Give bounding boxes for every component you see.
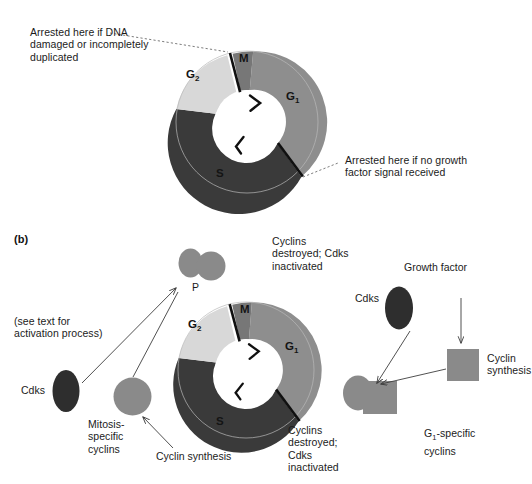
mitosis-cyclin-molecule [114, 378, 152, 416]
mitosis-specific-cyclins-label: Mitosis- specific cyclins [88, 418, 148, 455]
cdks-label-right: Cdks [355, 292, 379, 304]
cdk-molecule-right [385, 287, 413, 330]
cdk-cyclin-complex-lobe-b [197, 252, 226, 281]
connector-mitosis-cyclin-to-complex [133, 292, 178, 377]
cdk-molecule-left [53, 370, 80, 412]
panel-b-letter: (b) [14, 233, 28, 245]
top-cell-cycle-wheel [168, 51, 327, 214]
growth-factor-label: Growth factor [404, 261, 467, 273]
top-annotation-g1s-checkpoint: Arrested here if no growth factor signal… [345, 154, 520, 179]
g1-specific-cyclins-label: G1-specific cyclins [424, 427, 514, 457]
top-wheel-hub [215, 90, 279, 154]
arrow-cdk-right-to-complex [377, 331, 410, 383]
arrow-cyclin-square-to-complex [381, 369, 446, 384]
cyclins-destroyed-note-top: Cyclins destroyed; Cdks inactivated [272, 235, 392, 272]
cyclin-synthesis-label-right: Cyclin synthesis [487, 352, 532, 377]
g1-cyclin-square-free [447, 349, 479, 381]
cdks-label-left: Cdks [21, 384, 45, 396]
g1-cdk-complex-square [363, 381, 397, 414]
top-annotation-g2m-checkpoint: Arrested here if DNA damaged or incomple… [30, 26, 190, 63]
activation-process-note: (see text for activation process) [14, 315, 139, 340]
cyclins-destroyed-note-bottom: Cyclins destroyed; Cdks inactivated [288, 424, 398, 474]
cyclin-synthesis-label-left: Cyclin synthesis [156, 450, 231, 462]
bottom-wheel-hub [215, 339, 277, 401]
phosphorylation-label: P [192, 281, 199, 293]
